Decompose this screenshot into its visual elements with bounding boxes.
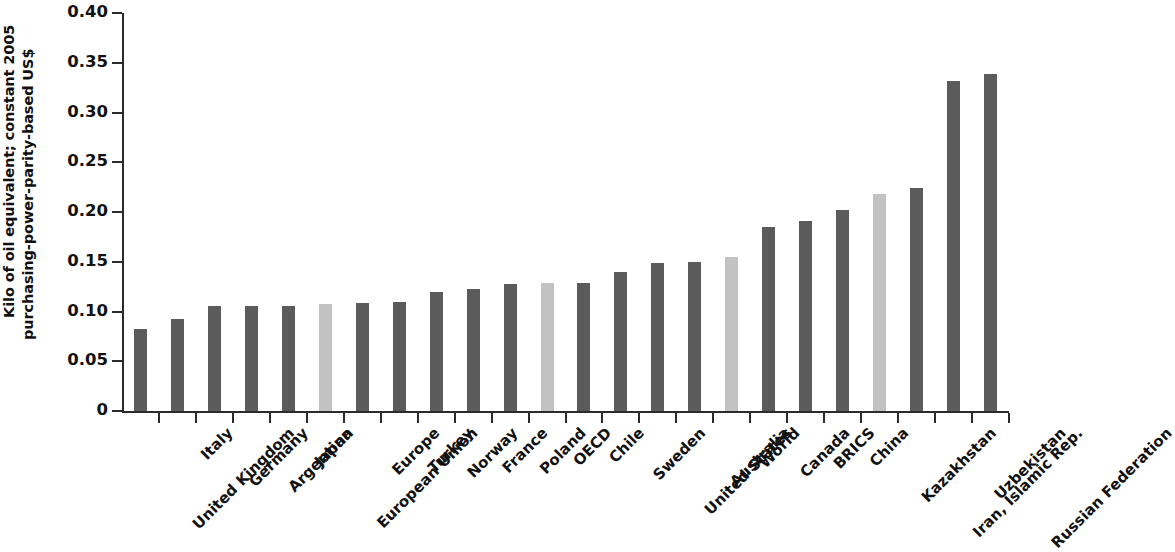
x-axis-tick <box>675 413 677 423</box>
bar <box>873 194 886 411</box>
y-axis-tick-label: 0.30 <box>58 102 108 121</box>
y-axis-tick-label: 0.35 <box>58 52 108 71</box>
y-axis-tick <box>112 112 122 114</box>
x-axis-tick-label: Italy <box>198 424 237 463</box>
y-axis-tick <box>112 161 122 163</box>
bar <box>393 302 406 411</box>
x-axis-tick-label: Chile <box>605 424 648 467</box>
x-axis-tick <box>860 413 862 423</box>
bar <box>171 319 184 411</box>
y-axis-title: Kilo of oil equivalent; constant 2005 pu… <box>0 0 56 420</box>
y-axis-tick-label: 0.10 <box>58 301 108 320</box>
y-axis-tick-label: 0.05 <box>58 350 108 369</box>
x-axis-tick <box>565 413 567 423</box>
bar <box>430 292 443 411</box>
bar <box>134 329 147 411</box>
x-axis-tick <box>269 413 271 423</box>
x-axis-tick <box>897 413 899 423</box>
bar <box>245 306 258 411</box>
x-axis-tick <box>306 413 308 423</box>
bar <box>467 289 480 411</box>
x-axis-tick-label: Japan <box>311 424 357 470</box>
y-axis-tick-label: 0 <box>58 400 108 419</box>
x-axis-tick <box>934 413 936 423</box>
bar <box>651 263 664 411</box>
x-axis-tick <box>380 413 382 423</box>
bar <box>614 272 627 411</box>
bar <box>799 221 812 411</box>
x-axis-tick-label: Kazakhstan <box>917 424 999 506</box>
x-axis-tick <box>528 413 530 423</box>
bar <box>504 284 517 411</box>
bar <box>984 74 997 411</box>
x-axis-tick <box>638 413 640 423</box>
bar <box>319 304 332 411</box>
y-axis-tick <box>112 211 122 213</box>
y-axis-tick <box>112 12 122 14</box>
x-axis-tick <box>823 413 825 423</box>
x-axis-tick <box>1008 413 1010 423</box>
x-axis-tick-label: Sweden <box>649 424 709 484</box>
bar <box>762 227 775 411</box>
y-axis-tick <box>112 311 122 313</box>
x-axis-tick <box>343 413 345 423</box>
x-axis-tick <box>712 413 714 423</box>
y-axis-line <box>122 13 124 413</box>
bar <box>282 306 295 411</box>
y-axis-tick <box>112 261 122 263</box>
y-axis-tick-label: 0.15 <box>58 251 108 270</box>
bar <box>947 81 960 411</box>
x-axis-tick <box>195 413 197 423</box>
x-axis-tick <box>491 413 493 423</box>
bar <box>541 283 554 411</box>
x-axis-tick <box>158 413 160 423</box>
x-axis-tick <box>601 413 603 423</box>
y-axis-title-line-2: purchasing-power-parity-based US$ <box>20 10 38 340</box>
bar <box>836 210 849 411</box>
bar <box>688 262 701 411</box>
y-axis-tick-label: 0.25 <box>58 151 108 170</box>
x-axis-tick <box>454 413 456 423</box>
y-axis-tick <box>112 62 122 64</box>
x-axis-tick <box>971 413 973 423</box>
y-axis-tick <box>112 360 122 362</box>
bar <box>356 303 369 411</box>
x-axis-tick <box>786 413 788 423</box>
y-axis-tick <box>112 410 122 412</box>
y-axis-tick-label: 0.40 <box>58 2 108 21</box>
x-axis-tick <box>749 413 751 423</box>
x-axis-tick <box>417 413 419 423</box>
bar <box>725 257 738 411</box>
bar <box>910 188 923 411</box>
y-axis-title-line-1: Kilo of oil equivalent; constant 2005 <box>1 0 19 318</box>
bar <box>577 283 590 411</box>
y-axis-tick-label: 0.20 <box>58 201 108 220</box>
bar <box>208 306 221 411</box>
x-axis-tick <box>232 413 234 423</box>
